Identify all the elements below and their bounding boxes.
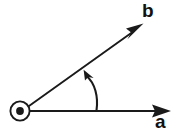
vector-diagram-figure: b a bbox=[0, 0, 187, 134]
vector-a-label: a bbox=[155, 112, 166, 131]
vector-b-label: b bbox=[142, 1, 154, 20]
vector-b-shaft bbox=[29, 31, 134, 106]
vector-b-arrowhead bbox=[126, 24, 144, 40]
rotation-arc-shaft bbox=[87, 76, 98, 111]
origin-dot-icon bbox=[16, 107, 24, 115]
